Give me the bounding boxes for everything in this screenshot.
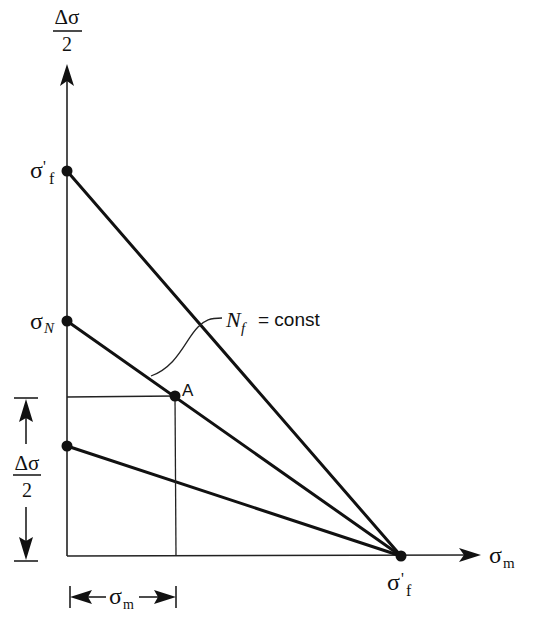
point-A (170, 391, 181, 402)
annotation-leader-curve (151, 318, 222, 376)
label-sigma-f-prime-y-prime: ' (43, 158, 46, 175)
y-axis-label: Δσ 2 (53, 5, 82, 55)
point-sigma-N (62, 316, 73, 327)
annotation-Nf-const: N f = const (225, 307, 321, 336)
dimension-horizontal-main: σ (109, 583, 122, 609)
label-sigma-f-prime-x-main: σ (387, 569, 400, 595)
point-sigma-f-prime-x (396, 551, 407, 562)
annotation-Nf-sub: f (241, 320, 247, 336)
x-axis-label: σ m (489, 542, 515, 571)
dimension-vertical-denominator: 2 (22, 479, 32, 501)
x-axis-label-main: σ (489, 542, 502, 568)
y-axis-label-numerator: Δσ (55, 5, 80, 29)
point-lower-intercept (62, 441, 73, 452)
constant-life-diagram: Δσ 2 σ m σ ' f σ N A σ ' f (0, 0, 537, 640)
label-sigma-f-prime-x: σ ' f (387, 569, 412, 599)
label-sigma-N-main: σ (30, 308, 43, 334)
label-sigma-f-prime-y-sub: f (49, 170, 55, 187)
label-sigma-N: σ N (30, 308, 55, 336)
dimension-vertical: Δσ 2 (13, 398, 41, 561)
x-axis (67, 555, 468, 556)
dimension-horizontal-sub: m (123, 597, 134, 612)
projection-vertical-A (175, 396, 176, 556)
label-sigma-f-prime-x-prime: ' (401, 570, 404, 587)
label-sigma-f-prime-y-main: σ (30, 157, 43, 183)
line-sigma-N (67, 321, 401, 556)
point-sigma-f-prime-y (62, 166, 73, 177)
label-sigma-f-prime-x-sub: f (406, 582, 412, 599)
label-sigma-f-prime-y: σ ' f (30, 157, 55, 187)
line-lower (67, 446, 401, 556)
label-sigma-N-sub: N (43, 320, 55, 336)
dimension-vertical-numerator: Δσ (15, 451, 40, 475)
annotation-Nf-main: N (225, 307, 242, 332)
x-axis-label-sub: m (503, 555, 515, 571)
y-axis-label-denominator: 2 (62, 33, 72, 55)
label-A: A (182, 381, 194, 400)
annotation-equals-const: = const (258, 309, 321, 330)
line-sigma-f-prime (67, 171, 401, 556)
projection-horizontal-A (67, 396, 175, 397)
dimension-horizontal: σ m (70, 583, 176, 612)
